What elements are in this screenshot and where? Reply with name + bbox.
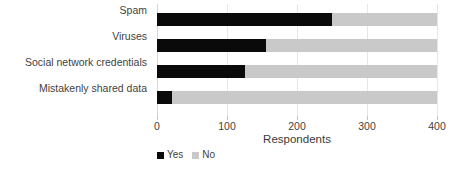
bar-segment-no — [172, 91, 437, 104]
y-axis-category-labels: Spam Viruses Social network credentials … — [0, 0, 152, 118]
bar-segment-no — [332, 13, 437, 26]
bar-segment-no — [245, 65, 438, 78]
y-axis-label-social-network-credentials: Social network credentials — [0, 56, 147, 69]
bar-row — [157, 39, 437, 52]
legend-item-yes: Yes — [157, 149, 183, 161]
bar-row — [157, 65, 437, 78]
legend-label-yes: Yes — [167, 149, 183, 161]
legend-item-no: No — [192, 149, 215, 161]
bar-segment-yes — [157, 39, 266, 52]
x-axis-title: Respondents — [157, 132, 437, 146]
legend-label-no: No — [202, 149, 215, 161]
plot-area — [157, 4, 437, 116]
bar-row — [157, 13, 437, 26]
bar-segment-yes — [157, 13, 332, 26]
stacked-bar-chart: Spam Viruses Social network credentials … — [0, 0, 467, 170]
bar-segment-no — [266, 39, 438, 52]
gridline-400 — [437, 4, 438, 116]
legend-swatch-icon — [157, 152, 164, 159]
y-axis-label-mistakenly-shared-data: Mistakenly shared data — [0, 82, 147, 95]
bar-row — [157, 91, 437, 104]
chart-legend: Yes No — [157, 149, 215, 161]
bar-segment-yes — [157, 91, 172, 104]
y-axis-label-spam: Spam — [0, 4, 147, 17]
bar-segment-yes — [157, 65, 245, 78]
y-axis-label-viruses: Viruses — [0, 30, 147, 43]
legend-swatch-icon — [192, 152, 199, 159]
